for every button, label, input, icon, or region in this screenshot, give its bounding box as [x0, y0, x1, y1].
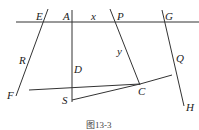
label-g: G: [165, 10, 173, 22]
label-y: y: [116, 45, 122, 57]
line-pc: [110, 9, 140, 85]
label-e: E: [35, 10, 43, 22]
segment-rc: [29, 84, 140, 90]
label-c: C: [138, 85, 146, 97]
label-x: x: [90, 10, 96, 22]
label-a: A: [62, 10, 70, 22]
geometry-diagram: E A x P G R D y Q C S F H 图13-3: [0, 0, 199, 130]
label-q: Q: [176, 52, 184, 64]
label-f: F: [6, 89, 14, 101]
label-r: R: [18, 54, 26, 66]
label-d: D: [73, 63, 82, 75]
label-p: P: [116, 10, 124, 22]
segment-cq: [140, 75, 172, 84]
figure-caption: 图13-3: [86, 120, 112, 130]
segment-sc: [72, 84, 140, 100]
label-h: H: [185, 101, 195, 113]
label-s: S: [62, 94, 68, 106]
